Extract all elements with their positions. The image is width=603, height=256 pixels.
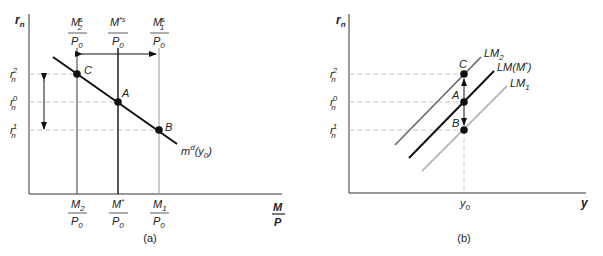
figure: rn r2n r0n r1n C A B md(y0) [0,0,603,256]
bottom-label-m2: M2 P0 [68,198,87,230]
svg-text:r0n: r0n [10,94,18,112]
panel-a-x-axis-label: M P [272,201,285,228]
svg-text:Ms1: Ms1 [153,16,165,32]
panel-b: rn r2n r0n r1n C A B LM2 LM(M*) LM1 y0 [330,13,589,244]
top-label-m1s: Ms1 P0 [150,16,169,50]
panel-b-r-labels: r2n r0n r1n [330,66,338,140]
svg-text:r1n: r1n [10,122,17,140]
svg-text:M: M [273,201,283,213]
top-label-mstars: M*s P0 [108,16,128,50]
bottom-label-mstar: M* P0 [109,198,128,230]
svg-text:M*: M* [112,198,124,210]
point-c-label: C [84,64,92,76]
point-b-a-label: A [451,89,459,101]
panel-a: rn r2n r0n r1n C A B md(y0) [10,13,285,244]
lm2-label: LM2 [484,47,504,62]
svg-text:r2n: r2n [10,66,18,84]
panel-a-y-axis-label: rn [15,13,25,29]
lm1-label: LM1 [510,77,530,92]
point-a [114,98,122,106]
point-b [155,126,163,134]
point-b-c [460,70,468,78]
svg-text:P0: P0 [153,35,165,50]
point-b-b-label: B [452,117,459,129]
svg-text:M*s: M*s [110,16,126,28]
panel-a-caption: (a) [143,232,156,244]
panel-b-x-tick-y0: y0 [459,197,471,212]
svg-text:M2: M2 [71,198,85,213]
svg-text:P0: P0 [153,215,165,230]
point-b-c-label: C [459,58,467,70]
svg-text:r2n: r2n [330,66,338,84]
bottom-label-m1: M1 P0 [150,198,169,230]
svg-text:P0: P0 [112,35,124,50]
svg-text:P: P [274,216,282,228]
panel-a-r-labels: r2n r0n r1n [10,66,18,140]
lm2-curve [395,57,481,145]
point-a-label: A [121,87,129,99]
panel-b-y-axis-label: rn [336,13,346,29]
top-label-m2s: Ms2 P0 [68,16,87,50]
panel-b-caption: (b) [457,232,470,244]
svg-text:P0: P0 [71,35,83,50]
point-b-b [460,126,468,134]
point-b-label: B [165,121,172,133]
svg-text:r0n: r0n [330,94,338,112]
svg-text:r1n: r1n [330,122,337,140]
svg-text:Ms2: Ms2 [71,16,83,32]
money-demand-label: md(y0) [181,143,212,160]
point-b-a [460,98,468,106]
svg-text:M1: M1 [153,198,167,213]
point-c [73,70,81,78]
panel-b-x-axis-label: y [580,196,589,210]
svg-text:P0: P0 [71,215,83,230]
lm-mstar-label: LM(M*) [497,61,532,73]
svg-text:P0: P0 [112,215,124,230]
lm-mstar-curve [409,71,494,158]
